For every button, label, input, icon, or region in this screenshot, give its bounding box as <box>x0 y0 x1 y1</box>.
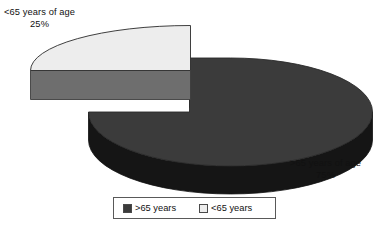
legend-label-old: >65 years <box>135 203 176 213</box>
pie-chart: <65 years of age 25% >65 years of age 75… <box>0 0 389 235</box>
chart-legend: >65 years <65 years <box>113 197 276 219</box>
slice-young-3d <box>31 26 191 100</box>
legend-swatch-young-icon <box>199 204 208 213</box>
legend-label-young: <65 years <box>211 203 252 213</box>
slice-label-young-name: <65 years of age <box>4 7 75 19</box>
legend-item-old: >65 years <box>123 203 176 213</box>
slice-label-young: <65 years of age 25% <box>4 7 75 30</box>
legend-item-young: <65 years <box>199 203 252 213</box>
slice-young-top <box>31 26 191 71</box>
slice-young-side <box>31 71 191 100</box>
slice-label-old: >65 years of age 75% <box>290 158 361 181</box>
legend-swatch-old-icon <box>123 204 132 213</box>
slice-label-old-name: >65 years of age <box>290 158 361 170</box>
slice-label-young-percent: 25% <box>4 19 75 31</box>
slice-label-old-percent: 75% <box>290 170 361 182</box>
